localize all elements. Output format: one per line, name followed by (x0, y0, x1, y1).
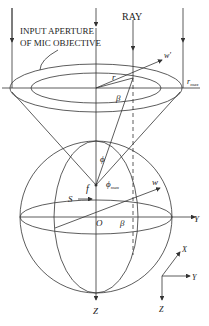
triad-x-label: X (181, 245, 188, 254)
ray-label: RAY (122, 11, 142, 22)
cone-left (12, 92, 96, 185)
triad-z-label: Z (159, 305, 164, 314)
focus-label: f (86, 183, 90, 194)
ray-path (96, 78, 133, 185)
z-axis-label: Z (93, 306, 99, 316)
focus-point (95, 184, 98, 187)
y-axis-label: Y (194, 214, 200, 224)
r-max-label: rmax (187, 77, 199, 87)
aperture-label-1: INPUT APERTURE (20, 26, 95, 36)
phi-max-label: ϕmax (106, 179, 120, 190)
phi-label: ϕ (100, 154, 105, 164)
beta-top-label: β (115, 93, 121, 103)
s-label: S (68, 194, 73, 204)
r-label: r (112, 72, 116, 82)
w-prime-label: w' (164, 51, 171, 60)
incoming-rays (12, 8, 183, 88)
optics-diagram: INPUT APERTURE OF MIC OBJECTIVE RAY w' r… (0, 0, 209, 326)
cone-right (96, 92, 180, 185)
beta-bottom-label: β (119, 218, 125, 228)
w-label: w (152, 177, 158, 187)
triad-y-label: Y (192, 273, 198, 282)
aperture-label-2: OF MIC OBJECTIVE (20, 38, 102, 48)
axes-triad (162, 252, 190, 300)
origin-label: O (96, 218, 103, 228)
